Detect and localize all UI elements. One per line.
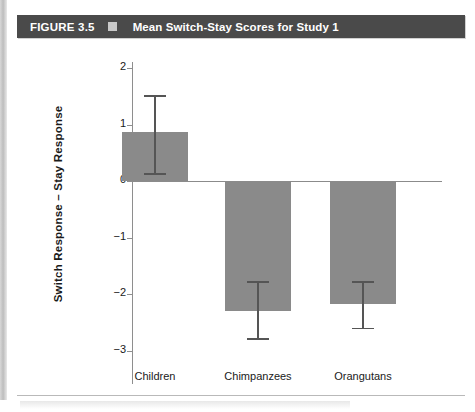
chart-plot-area: Switch Response – Stay Response 210−1−2−… [0, 38, 475, 383]
y-tick-mark [127, 125, 132, 126]
error-bar-stem [362, 281, 363, 328]
error-bar-cap-lower [144, 173, 166, 175]
y-tick-label: −1 [96, 230, 126, 242]
error-bar-cap-lower [352, 328, 374, 330]
error-bar-cap-lower [247, 338, 269, 340]
footer-cutoff-text [20, 401, 350, 409]
footer-divider [17, 395, 465, 396]
error-bar-cap-upper [352, 281, 374, 283]
x-label-children: Children [100, 370, 210, 382]
figure-title: Mean Switch-Stay Scores for Study 1 [133, 21, 339, 33]
y-tick-label: 2 [96, 60, 126, 72]
figure-header: FIGURE 3.5 Mean Switch-Stay Scores for S… [17, 15, 465, 38]
x-label-orangutans: Orangutans [308, 370, 418, 382]
y-tick-label: −3 [96, 343, 126, 355]
y-tick-mark [127, 351, 132, 352]
square-marker-icon [108, 22, 117, 31]
y-tick-mark [127, 294, 132, 295]
error-bar-cap-upper [144, 95, 166, 97]
y-tick-mark [127, 238, 132, 239]
error-bar-stem [154, 95, 155, 173]
y-tick-mark [127, 68, 132, 69]
error-bar-stem [257, 281, 258, 338]
y-tick-label: −2 [96, 286, 126, 298]
x-label-chimpanzees: Chimpanzees [203, 370, 313, 382]
y-tick-label: 1 [96, 117, 126, 129]
figure-number: FIGURE 3.5 [30, 21, 95, 33]
y-axis-label: Switch Response – Stay Response [52, 89, 64, 319]
error-bar-cap-upper [247, 281, 269, 283]
y-axis-line [132, 62, 133, 384]
